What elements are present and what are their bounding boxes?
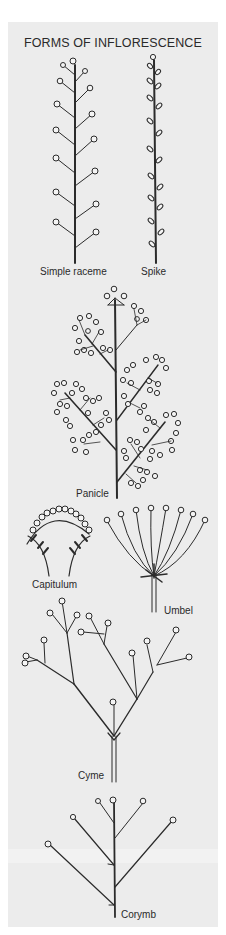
label-umbel: Umbel: [164, 605, 193, 616]
panicle-drawing: [51, 286, 180, 498]
label-capitulum: Capitulum: [32, 579, 77, 590]
simple-raceme-drawing: [53, 58, 99, 263]
spike-drawing: [146, 54, 165, 263]
capitulum-drawing: [27, 506, 92, 576]
label-corymb: Corymb: [121, 909, 156, 920]
label-panicle: Panicle: [76, 488, 109, 499]
umbel-drawing: [104, 505, 208, 612]
label-cyme: Cyme: [78, 770, 104, 781]
label-simple-raceme: Simple raceme: [40, 266, 107, 277]
cyme-drawing: [22, 598, 192, 782]
label-spike: Spike: [141, 266, 166, 277]
inflorescence-illustrations: [0, 0, 226, 935]
corymb-drawing: [45, 797, 176, 917]
